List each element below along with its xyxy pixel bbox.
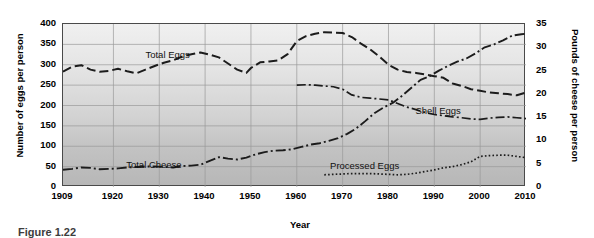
y-tick-right-0: 0 [536, 181, 570, 191]
series-label-processed-eggs: Processed Eggs [330, 160, 399, 171]
y-tick-right-35: 35 [536, 18, 570, 28]
x-tick-1920: 1920 [90, 191, 134, 201]
x-tick-2000: 2000 [457, 191, 501, 201]
y-tick-right-30: 30 [536, 41, 570, 51]
series-line-total-eggs [63, 32, 526, 95]
x-tick-1909: 1909 [40, 191, 84, 201]
x-tick-1980: 1980 [365, 191, 409, 201]
y-tick-left-250: 250 [22, 79, 56, 89]
y-tick-right-10: 10 [536, 134, 570, 144]
y-tick-left-350: 350 [22, 38, 56, 48]
x-tick-2010: 2010 [503, 191, 547, 201]
y-tick-left-50: 50 [22, 161, 56, 171]
y-tick-left-150: 150 [22, 120, 56, 130]
x-tick-1950: 1950 [228, 191, 272, 201]
y-tick-left-400: 400 [22, 18, 56, 28]
x-tick-1990: 1990 [411, 191, 455, 201]
y-axis-right-title: Pounds of cheese per person [570, 11, 581, 181]
y-tick-left-300: 300 [22, 59, 56, 69]
y-tick-right-20: 20 [536, 88, 570, 98]
y-axis-left-title: Number of eggs per person [14, 11, 25, 181]
y-tick-left-100: 100 [22, 140, 56, 150]
figure-container: Number of eggs per person Pounds of chee… [0, 0, 594, 238]
y-tick-right-15: 15 [536, 111, 570, 121]
x-tick-1970: 1970 [320, 191, 364, 201]
x-tick-1960: 1960 [274, 191, 318, 201]
x-tick-1930: 1930 [136, 191, 180, 201]
x-axis-title: Year [0, 219, 594, 230]
y-tick-left-200: 200 [22, 100, 56, 110]
y-tick-right-25: 25 [536, 65, 570, 75]
series-label-shell-eggs: Shell Eggs [415, 105, 460, 116]
y-tick-right-5: 5 [536, 158, 570, 168]
series-line-total-cheese [63, 34, 526, 170]
series-label-total-eggs: Total Eggs [145, 49, 189, 60]
series-label-total-cheese: Total Cheese [126, 159, 181, 170]
figure-caption: Figure 1.22 [18, 226, 76, 238]
series-line-shell-eggs [297, 85, 526, 120]
x-tick-1940: 1940 [182, 191, 226, 201]
